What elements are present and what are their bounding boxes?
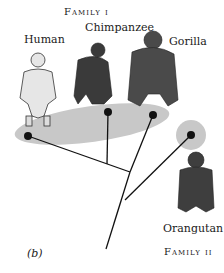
orangutan-illustration <box>178 152 214 212</box>
node-chimpanzee <box>104 108 112 116</box>
chimpanzee-illustration <box>74 43 112 104</box>
node-orangutan <box>187 131 195 139</box>
family-2-label: Family ii <box>164 246 212 257</box>
family-1-label: Family i <box>64 6 109 17</box>
gorilla-label: Gorilla <box>169 35 207 48</box>
panel-label: (b) <box>27 247 43 260</box>
chimpanzee-label: Chimpanzee <box>85 21 154 34</box>
human-label: Human <box>24 33 65 46</box>
node-human <box>24 132 32 140</box>
orangutan-label: Orangutan <box>163 222 223 235</box>
phylogeny-figure: Family i Chimpanzee Human Gorilla Orangu… <box>0 0 224 273</box>
node-gorilla <box>149 111 157 119</box>
